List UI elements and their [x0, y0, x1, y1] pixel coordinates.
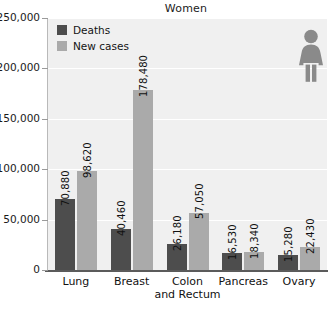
legend-swatch-new-cases — [57, 41, 67, 51]
y-axis-tick-label: 200,000 — [0, 61, 40, 73]
category-label-line: and Rectum — [154, 288, 222, 301]
y-axis-tick — [42, 169, 48, 170]
y-axis-tick — [42, 18, 48, 19]
y-axis-line — [47, 18, 48, 270]
y-axis-tick-label: 150,000 — [0, 112, 40, 124]
legend-item-deaths: Deaths — [57, 22, 129, 38]
y-axis-tick — [42, 270, 48, 271]
y-axis-tick — [42, 220, 48, 221]
bar-chart-figure: Women 050,000100,000150,000200,000250,00… — [0, 0, 332, 311]
bar-value-label: 15,280 — [283, 226, 294, 262]
bar-deaths — [55, 199, 75, 270]
category-label-line: Ovary — [265, 275, 332, 288]
legend-swatch-deaths — [57, 25, 67, 35]
legend-label-deaths: Deaths — [73, 24, 110, 36]
y-axis-tick-label: 0 — [0, 263, 40, 275]
bar-newcases — [77, 171, 97, 270]
x-axis-baseline — [45, 270, 328, 272]
gridline — [48, 119, 327, 120]
gridline — [48, 68, 327, 69]
y-axis-tick — [42, 68, 48, 69]
legend-label-new-cases: New cases — [73, 40, 129, 52]
woman-pictogram-icon — [296, 29, 326, 87]
chart-legend: Deaths New cases — [57, 22, 129, 54]
bar-value-label: 26,180 — [172, 215, 183, 251]
bar-value-label: 16,530 — [227, 225, 238, 261]
bar-value-label: 98,620 — [82, 142, 93, 178]
chart-title: Women — [0, 2, 332, 15]
bar-value-label: 57,050 — [194, 184, 205, 220]
bar-value-label: 178,480 — [138, 55, 149, 97]
y-axis-tick — [42, 119, 48, 120]
bar-value-label: 18,340 — [249, 223, 260, 259]
bar-value-label: 40,460 — [116, 201, 127, 237]
category-label: Ovary — [265, 275, 332, 288]
gridline — [48, 18, 327, 19]
y-axis-tick-label: 100,000 — [0, 162, 40, 174]
bar-newcases — [189, 213, 209, 271]
y-axis-tick-label: 250,000 — [0, 11, 40, 23]
y-axis-tick-label: 50,000 — [0, 213, 40, 225]
bar-value-label: 70,880 — [60, 170, 71, 206]
legend-item-new-cases: New cases — [57, 38, 129, 54]
bar-newcases — [133, 90, 153, 270]
bar-value-label: 22,430 — [305, 219, 316, 255]
